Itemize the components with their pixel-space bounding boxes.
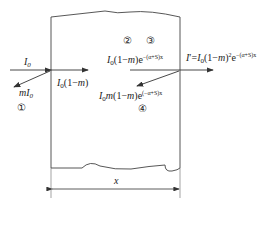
internal-reflected-arrow [137,71,179,86]
before-exit-label: I0(1−m)e−(α+S)x [107,54,163,67]
internal-reflected-label: I0m(1−m)e(−α+S)x [99,90,162,103]
reflected-label: mI0 [19,88,33,100]
marker-1: ① [17,103,26,113]
transmitted-label: I′=I0(1−m)2e−(α+S)x [186,52,256,65]
incident-label: I0 [24,57,31,69]
entering-label: I0(1−m) [57,78,88,90]
marker-3: ③ [146,36,155,46]
marker-4: ④ [138,104,147,114]
reflected-arrow [14,71,50,87]
marker-2: ② [123,36,132,46]
thickness-label: x [114,176,118,186]
